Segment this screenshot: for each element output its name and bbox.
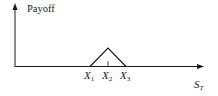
y-axis-arrow-icon <box>13 3 18 10</box>
strike-label-x1: X1 <box>83 69 95 83</box>
payoff-diagram: Payoff X1 X2 X3 ST <box>0 0 218 96</box>
strike-label-x2: X2 <box>101 69 113 83</box>
x-axis-label: ST <box>194 78 205 92</box>
y-axis-label: Payoff <box>27 3 55 14</box>
x-axis-arrow-icon <box>197 64 204 69</box>
strike-label-x3: X3 <box>119 69 131 83</box>
